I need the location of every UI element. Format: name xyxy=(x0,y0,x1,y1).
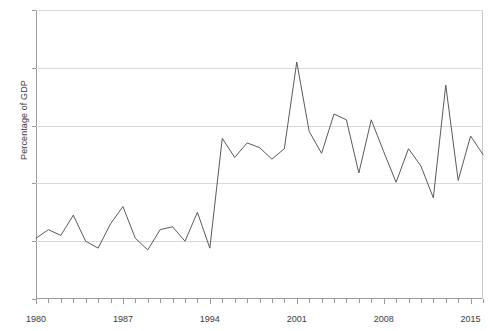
x-tick-mark-minor xyxy=(160,299,161,303)
x-tick-mark-minor xyxy=(173,299,174,303)
x-tick-label: 1987 xyxy=(103,314,143,324)
x-tick-mark-minor xyxy=(346,299,347,303)
x-tick-mark-minor xyxy=(272,299,273,303)
x-tick-mark-minor xyxy=(458,299,459,303)
x-tick-mark-minor xyxy=(222,299,223,303)
x-tick-label: 2008 xyxy=(364,314,404,324)
plot-area: 012345 198019871994200120082015 xyxy=(36,10,483,299)
x-tick-mark-minor xyxy=(359,299,360,303)
x-tick-mark-minor xyxy=(433,299,434,303)
x-tick-mark-minor xyxy=(421,299,422,303)
x-tick-label: 2015 xyxy=(451,314,490,324)
x-tick-mark-minor xyxy=(247,299,248,303)
x-tick-mark-minor xyxy=(48,299,49,303)
x-tick-mark-minor xyxy=(61,299,62,303)
x-tick-mark-minor xyxy=(86,299,87,303)
x-tick-mark-minor xyxy=(309,299,310,303)
x-tick-mark-minor xyxy=(235,299,236,303)
data-series-line xyxy=(36,10,483,299)
x-tick-label: 1980 xyxy=(16,314,56,324)
x-tick-mark-minor xyxy=(371,299,372,303)
x-tick-mark-minor xyxy=(185,299,186,303)
x-tick-mark-major xyxy=(471,299,472,304)
x-tick-mark-major xyxy=(36,299,37,304)
x-tick-mark-major xyxy=(297,299,298,304)
x-tick-mark-minor xyxy=(148,299,149,303)
x-tick-mark-minor xyxy=(322,299,323,303)
x-tick-mark-minor xyxy=(483,299,484,303)
x-tick-mark-minor xyxy=(197,299,198,303)
x-tick-label: 1994 xyxy=(190,314,230,324)
x-tick-mark-minor xyxy=(334,299,335,303)
series-polyline xyxy=(36,62,483,250)
x-tick-mark-minor xyxy=(73,299,74,303)
x-tick-mark-minor xyxy=(409,299,410,303)
x-tick-mark-minor xyxy=(446,299,447,303)
line-chart: Percentage of GDP 012345 198019871994200… xyxy=(0,0,490,331)
x-tick-mark-minor xyxy=(284,299,285,303)
x-tick-mark-minor xyxy=(396,299,397,303)
y-axis-title: Percentage of GDP xyxy=(19,60,29,180)
x-tick-mark-minor xyxy=(135,299,136,303)
x-tick-mark-minor xyxy=(98,299,99,303)
x-tick-mark-major xyxy=(384,299,385,304)
x-tick-mark-minor xyxy=(260,299,261,303)
x-tick-mark-major xyxy=(210,299,211,304)
x-tick-mark-major xyxy=(123,299,124,304)
x-tick-label: 2001 xyxy=(277,314,317,324)
x-tick-mark-minor xyxy=(111,299,112,303)
